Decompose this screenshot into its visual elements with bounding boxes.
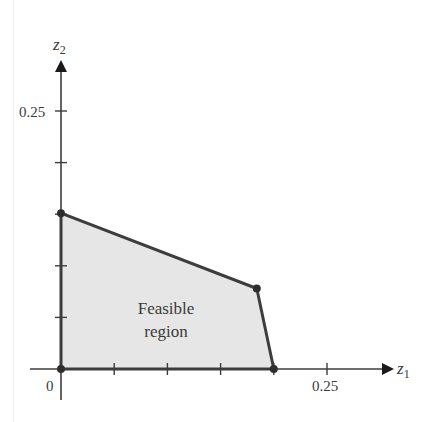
vertex-point: [270, 365, 278, 373]
feasible-region-chart: z2 z1 0.25 0.25 0 Feasible region: [0, 0, 436, 422]
vertex-point: [57, 365, 65, 373]
feasible-region: [61, 213, 274, 369]
y-tick-label-0.25: 0.25: [19, 104, 45, 120]
x-tick-label-0.25: 0.25: [312, 378, 338, 394]
vertex-point: [253, 285, 261, 293]
region-label-line2: region: [144, 322, 188, 341]
y-axis-label: z2: [52, 35, 66, 57]
origin-label: 0: [46, 378, 54, 394]
vertex-point: [57, 209, 65, 217]
region-label-line1: Feasible: [138, 299, 195, 318]
x-axis-arrow-icon: [382, 363, 394, 375]
y-axis-arrow-icon: [55, 60, 67, 72]
x-axis-label: z1: [396, 359, 410, 381]
